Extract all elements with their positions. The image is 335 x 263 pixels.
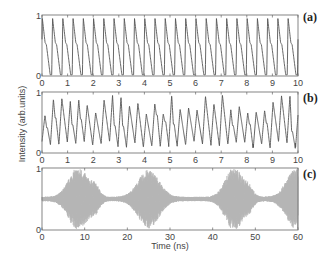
trace-c [42,169,298,229]
x-tick-label: 4 [142,78,147,88]
x-tick-label: 7 [219,155,224,165]
x-tick-label: 9 [270,155,275,165]
panel-b: 012345678910 1 0 (b) [36,88,318,165]
y-tick-1-a: 1 [36,11,41,21]
x-tick-label: 1 [65,78,70,88]
x-tick-label: 7 [219,78,224,88]
x-tick-label: 60 [293,232,303,242]
y-axis-title: Intensity (arb.units) [17,86,27,163]
y-tick-0-a: 0 [36,71,41,81]
x-tick-label: 50 [250,232,260,242]
figure: 012345678910 1 0 (a) 012345678910 1 0 (b… [0,0,335,263]
x-tick-label: 5 [167,78,172,88]
panel-label-a: (a) [303,10,317,24]
x-tick-label: 6 [193,78,198,88]
x-tick-label: 1 [65,155,70,165]
x-tick-label: 8 [244,78,249,88]
trace-b [42,95,298,148]
x-tick-label: 10 [293,78,303,88]
panel-c: 0102030405060 1 0 (c) [36,164,316,242]
x-tick-label: 4 [142,155,147,165]
x-tick-label: 3 [116,78,121,88]
panel-label-c: (c) [303,167,316,181]
axes-frame-a [42,15,298,76]
x-tick-label: 5 [167,155,172,165]
x-tick-label: 2 [91,78,96,88]
x-tick-label: 20 [122,232,132,242]
x-tick-label: 9 [270,78,275,88]
trace-a [42,19,298,75]
y-tick-1-c: 1 [36,164,41,174]
y-tick-1-b: 1 [36,88,41,98]
x-tick-label: 10 [293,155,303,165]
x-tick-label: 10 [80,232,90,242]
x-tick-label: 2 [91,155,96,165]
x-tick-label: 6 [193,155,198,165]
x-ticks-a: 012345678910 [39,15,303,88]
x-tick-label: 40 [208,232,218,242]
x-tick-label: 3 [116,155,121,165]
y-tick-0-b: 0 [36,148,41,158]
panel-label-b: (b) [303,91,318,105]
x-axis-title: Time (ns) [151,241,189,251]
x-tick-label: 8 [244,155,249,165]
panel-a: 012345678910 1 0 (a) [36,10,317,88]
y-tick-0-c: 0 [36,225,41,235]
